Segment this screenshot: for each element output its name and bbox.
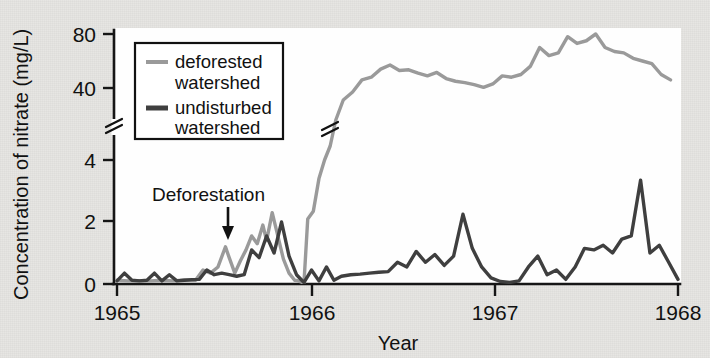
deforestation-label: Deforestation <box>152 184 265 205</box>
legend-label-deforested-line2: watershed <box>174 72 260 93</box>
nitrate-concentration-chart: 80 40 4 2 0 Concentration of nitrate (mg… <box>0 0 710 358</box>
chart-legend: deforested watershed undisturbed watersh… <box>135 43 283 139</box>
y-tick-label-0: 0 <box>84 273 96 296</box>
x-axis-ticks <box>117 284 678 296</box>
y-axis-title: Concentration of nitrate (mg/L) <box>10 29 32 300</box>
legend-label-undisturbed-line2: watershed <box>174 117 260 138</box>
y-tick-label-40: 40 <box>73 77 96 100</box>
x-tick-label-1968: 1968 <box>655 301 702 324</box>
x-tick-label-1966: 1966 <box>289 301 336 324</box>
legend-label-undisturbed-line1: undisturbed <box>175 97 272 118</box>
y-tick-label-80: 80 <box>73 23 96 46</box>
x-tick-label-1965: 1965 <box>94 301 141 324</box>
y-tick-label-4: 4 <box>84 149 96 172</box>
chart-canvas: 80 40 4 2 0 Concentration of nitrate (mg… <box>0 0 710 358</box>
x-tick-label-1967: 1967 <box>472 301 519 324</box>
y-axis-ticks <box>103 34 114 284</box>
x-axis-title: Year <box>378 332 419 354</box>
y-tick-label-2: 2 <box>84 210 96 233</box>
legend-label-deforested-line1: deforested <box>175 51 262 72</box>
